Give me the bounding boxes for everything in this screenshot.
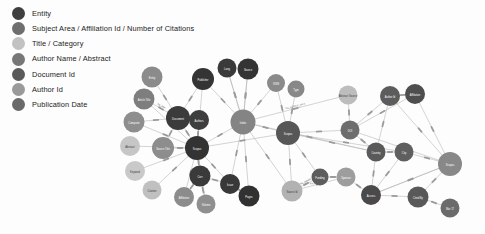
graph-node[interactable]: Document [166,106,190,130]
graph-node[interactable]: Lang [218,59,237,78]
edge-marker [217,133,223,138]
node-label: Scopus [284,132,293,136]
node-label: Index [240,121,247,125]
node-label: Corr [197,175,202,179]
node-label: Author Id [385,95,396,99]
edge-marker [385,170,390,176]
graph-node[interactable]: Author Id [380,86,400,106]
graph-node[interactable]: Source [238,59,259,80]
node-label: Volume [202,203,211,207]
graph-node[interactable]: Citation [143,181,162,200]
node-label: Pages [245,195,253,199]
graph-node[interactable]: Abstract [120,136,140,156]
graph-node[interactable]: Cited By [408,187,429,208]
node-label: Cited By [413,196,424,200]
edge-marker [301,152,306,158]
node-layer[interactable]: EntityArticle TitleComputerAbstractKeywo… [120,59,462,218]
edge-marker [245,156,247,163]
edge-marker [329,141,336,144]
node-label: ISSN [273,82,279,86]
edge-marker [391,195,397,197]
graph-node[interactable]: Publisher [192,68,214,90]
edge-marker [306,135,313,138]
edge-marker [431,201,438,205]
graph-node[interactable]: Computer [124,112,145,133]
edge-marker [235,150,238,157]
edge-marker [330,176,336,178]
edge-marker [372,170,375,177]
node-label: Keyword [130,170,141,174]
graph-node[interactable]: Article Title [134,89,155,110]
graph-node[interactable]: Source Title [152,137,174,159]
graph-node[interactable]: Country [367,143,386,162]
graph-node[interactable]: Sponsor [337,168,356,187]
node-label: Entity [149,76,156,80]
graph-node[interactable]: Mar 17 [441,199,460,218]
edge-marker [343,141,350,144]
graph-canvas[interactable]: ha_titleha_subject_areaha_patentha_affil… [0,0,485,234]
graph-node[interactable]: Affiliation [405,84,425,104]
edge-marker [262,126,269,129]
node-label: Abstract [125,145,135,149]
edge-marker [360,138,366,144]
node-label: DOI [348,129,353,133]
edge-marker [244,92,246,99]
graph-node[interactable]: Source Id [282,181,303,202]
graph-node[interactable]: Entity [142,67,163,88]
edge-marker [220,98,226,104]
graph-node[interactable]: Keyword [125,161,145,181]
node-label: Scopus [193,147,202,151]
edge-marker [162,133,169,137]
edge-marker [355,183,361,188]
node-label: Affiliation [179,196,190,200]
knowledge-graph-figure: EntitySubject Area / Affiliation Id / Nu… [0,0,485,234]
graph-node[interactable]: Scopus [438,152,462,176]
node-label: Funding [315,176,325,180]
node-label: Scopus [446,163,455,167]
node-label: Article Title [138,98,151,102]
graph-node[interactable]: Type [288,81,305,98]
edge-marker [417,127,423,133]
graph-node[interactable]: Scopus [185,136,209,160]
node-label: Source Title [156,147,170,151]
edge-marker [168,130,172,137]
edge-marker [430,126,434,133]
graph-node[interactable]: Corr [190,166,211,187]
node-label: Country [371,151,381,155]
edge-marker [381,121,384,128]
graph-node[interactable]: ISSN [267,74,285,92]
graph-node[interactable]: Funding [312,169,329,186]
edge-marker [379,110,385,115]
graph-node[interactable]: DOI [341,121,360,140]
edge-marker [233,92,237,99]
edge-marker [211,163,217,169]
graph-node[interactable]: City [395,143,414,162]
graph-node[interactable]: Pages [239,186,260,207]
edge-marker [188,95,193,101]
edge-marker [348,109,350,115]
node-label: Type [293,88,299,92]
edge-marker [201,187,204,194]
graph-node[interactable]: Abstract Source [339,86,358,105]
edge-marker [265,153,270,159]
edge-marker [387,151,393,153]
graph-node[interactable]: Affiliation [174,187,194,207]
node-label: Source [244,68,253,72]
graph-node[interactable]: Issue [220,174,240,194]
graph-node[interactable]: Volume [197,195,216,214]
graph-node[interactable]: Scopus [276,121,300,145]
edge-marker [163,94,168,100]
node-label: Source Id [286,190,298,194]
graph-node[interactable]: Index [231,110,256,135]
edge-marker [280,105,283,112]
node-label: Mar 17 [446,207,455,211]
graph-node[interactable]: Authors [189,110,209,130]
edge-marker [289,159,291,166]
edge-marker [407,177,414,181]
edge-marker [367,110,373,116]
node-label: Publisher [198,78,209,82]
graph-node[interactable]: Access [361,185,381,205]
edge-marker [177,147,183,149]
edge-marker [431,178,437,184]
edge-marker [185,130,190,136]
